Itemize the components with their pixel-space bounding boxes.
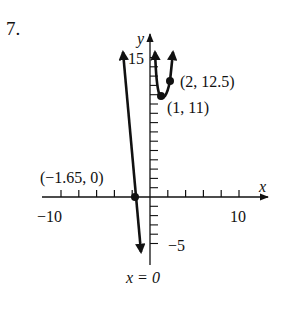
left-branch-curve	[123, 52, 141, 252]
x-tick-label-neg10: −10	[37, 208, 62, 225]
right-branch-curve	[155, 52, 173, 98]
point-min	[157, 92, 165, 100]
point-right-label: (2, 12.5)	[180, 73, 235, 91]
asymptote-label: x = 0	[125, 269, 160, 286]
y-tick-label-15: 15	[128, 50, 144, 67]
y-axis-label: y	[135, 30, 145, 48]
graph: y x 15 −5 −10 10 (−1.65, 0) (1, 11) (2, …	[0, 0, 283, 309]
point-intercept	[131, 193, 139, 201]
point-right	[166, 77, 174, 85]
x-axis-label: x	[258, 178, 266, 195]
y-tick-label-neg5: −5	[168, 237, 185, 254]
x-tick-label-10: 10	[230, 208, 246, 225]
point-min-label: (1, 11)	[167, 99, 209, 117]
point-intercept-label: (−1.65, 0)	[40, 169, 104, 187]
